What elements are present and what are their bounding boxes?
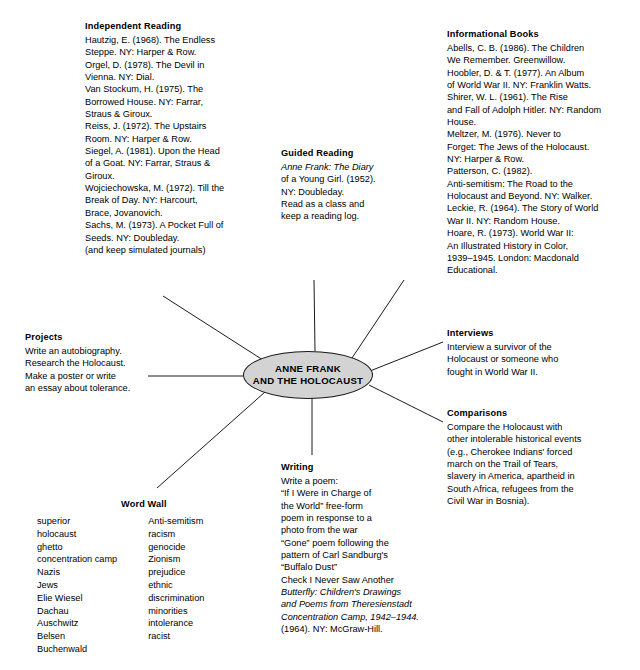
- branch-title-writing: Writing: [281, 461, 451, 474]
- branch-title-independent-reading: Independent Reading: [85, 20, 260, 33]
- word-wall-column-left: superior holocaust ghetto concentration …: [37, 515, 117, 656]
- text-line: Holocaust or someone who: [447, 353, 617, 365]
- text-line: Anne Frank: The Diary: [281, 161, 401, 173]
- text-line: Leckie, R. (1964). The Story of World: [447, 202, 627, 214]
- text-line: NY: Harper & Row.: [447, 153, 627, 165]
- text-line: Orgel, D. (1978). The Devil in: [85, 59, 260, 71]
- branch-title-comparisons: Comparisons: [447, 407, 627, 420]
- text-line: Civil War in Bosnia).: [447, 495, 627, 507]
- text-line: Compare the Holocaust with: [447, 421, 627, 433]
- word-wall-term: superior: [37, 515, 117, 528]
- word-wall-column-right: Anti-semitism racism genocide Zionism pr…: [148, 515, 204, 656]
- connector-comparisons: [369, 385, 443, 422]
- word-wall-term: Anti-semitism: [148, 515, 204, 528]
- text-line: Read as a class and: [281, 198, 401, 210]
- word-wall-term: Dachau: [37, 605, 117, 618]
- text-line: An Illustrated History in Color,: [447, 240, 627, 252]
- text-line: “Gone” poem following the: [281, 537, 451, 549]
- text-line: of a Goat. NY: Farrar, Straus &: [85, 157, 260, 169]
- word-wall-term: ghetto: [37, 541, 117, 554]
- branch-body-projects: Write an autobiography. Research the Hol…: [25, 345, 190, 394]
- text-line: poem in response to a: [281, 512, 451, 524]
- text-line: (1964). NY: McGraw-Hill.: [281, 623, 451, 635]
- word-wall-term: Jews: [37, 579, 117, 592]
- branch-title-interviews: Interviews: [447, 327, 617, 340]
- text-line: Straus & Giroux.: [85, 108, 260, 120]
- text-line: slavery in America, apartheid in: [447, 470, 627, 482]
- text-line: Interview a survivor of the: [447, 341, 617, 353]
- word-wall-term: Auschwitz: [37, 617, 117, 630]
- branch-body-independent-reading: Hautzig, E. (1968). The Endless Steppe. …: [85, 34, 260, 256]
- word-wall-term: discrimination: [148, 592, 204, 605]
- word-wall-term: Zionism: [148, 553, 204, 566]
- text-line: fought in World War II.: [447, 366, 617, 378]
- text-line: Hoare, R. (1973). World War II:: [447, 227, 627, 239]
- word-wall-term: Buchenwald: [37, 643, 117, 656]
- center-node-anne-frank-and-the-holocaust: ANNE FRANK AND THE HOLOCAUST: [243, 351, 373, 399]
- text-line: Holocaust and Beyond. NY: Walker.: [447, 190, 627, 202]
- word-wall-term: Belsen: [37, 630, 117, 643]
- text-line: of World War II. NY: Franklin Watts.: [447, 79, 627, 91]
- branch-body-comparisons: Compare the Holocaust with other intoler…: [447, 421, 627, 507]
- branch-independent-reading: Independent Reading Hautzig, E. (1968). …: [85, 20, 260, 256]
- text-line: Meltzer, M. (1976). Never to: [447, 128, 627, 140]
- text-line: Make a poster or write: [25, 370, 190, 382]
- branch-body-interviews: Interview a survivor of the Holocaust or…: [447, 341, 617, 378]
- text-line: an essay about tolerance.: [25, 382, 190, 394]
- connector-guided-reading: [314, 280, 315, 351]
- word-wall-term: holocaust: [37, 528, 117, 541]
- text-line: Educational.: [447, 264, 627, 276]
- text-line: Concentration Camp, 1942–1944.: [281, 611, 451, 623]
- text-line: Van Stockum, H. (1975). The: [85, 83, 260, 95]
- text-line: Reiss, J. (1972). The Upstairs: [85, 120, 260, 132]
- text-line: Giroux.: [85, 170, 260, 182]
- text-line: photo from the war: [281, 524, 451, 536]
- text-line: Research the Holocaust.: [25, 357, 190, 369]
- text-line: (e.g., Cherokee Indians' forced: [447, 446, 627, 458]
- text-line: Steppe. NY: Harper & Row.: [85, 46, 260, 58]
- text-line: Forget: The Jews of the Holocaust.: [447, 141, 627, 153]
- connector-informational-books: [352, 280, 404, 358]
- branch-informational-books: Informational Books Abells, C. B. (1986)…: [447, 28, 627, 277]
- text-line: keep a reading log.: [281, 210, 401, 222]
- word-wall-term: minorities: [148, 605, 204, 618]
- branch-guided-reading: Guided Reading Anne Frank: The Diary of …: [281, 147, 401, 223]
- text-line: Write a poem:: [281, 475, 451, 487]
- text-line: Break of Day. NY: Harcourt,: [85, 194, 260, 206]
- text-line: Brace, Jovanovich.: [85, 207, 260, 219]
- branch-projects: Projects Write an autobiography. Researc…: [25, 331, 190, 394]
- text-line: NY: Doubleday.: [281, 186, 401, 198]
- branch-word-wall: Word Wall superior holocaust ghetto conc…: [37, 498, 252, 656]
- text-line: War II. NY: Random House.: [447, 215, 627, 227]
- text-line: We Remember. Greenwillow.: [447, 54, 627, 66]
- text-line: Hoobler, D. & T. (1977). An Album: [447, 67, 627, 79]
- text-line: Borrowed House. NY: Farrar,: [85, 96, 260, 108]
- text-line: Vienna. NY: Dial.: [85, 71, 260, 83]
- text-line: the World” free-form: [281, 500, 451, 512]
- text-line: (and keep simulated journals): [85, 244, 260, 256]
- text-line: and Fall of Adolph Hitler. NY: Random: [447, 104, 627, 116]
- branch-writing: Writing Write a poem: “If I Were in Char…: [281, 461, 451, 635]
- word-wall-term: Nazis: [37, 566, 117, 579]
- branch-title-guided-reading: Guided Reading: [281, 147, 401, 160]
- branch-title-word-wall: Word Wall: [121, 498, 252, 511]
- text-line: Sachs, M. (1973). A Pocket Full of: [85, 219, 260, 231]
- center-node-line-1: ANNE FRANK: [253, 363, 363, 375]
- branch-interviews: Interviews Interview a survivor of the H…: [447, 327, 617, 378]
- word-wall-term: genocide: [148, 541, 204, 554]
- text-line: pattern of Carl Sandburg's: [281, 549, 451, 561]
- text-line: Shirer, W. L. (1961). The Rise: [447, 91, 627, 103]
- text-line: Butterfly: Children's Drawings: [281, 586, 451, 598]
- word-wall-term: Elie Wiesel: [37, 592, 117, 605]
- text-line: Siegel, A. (1981). Upon the Head: [85, 145, 260, 157]
- text-line: Wojciechowska, M. (1972). Till the: [85, 182, 260, 194]
- mind-map-canvas: ANNE FRANK AND THE HOLOCAUST Independent…: [0, 0, 640, 670]
- text-line: House.: [447, 116, 627, 128]
- text-line: Hautzig, E. (1968). The Endless: [85, 34, 260, 46]
- branch-body-writing: Write a poem: “If I Were in Charge of th…: [281, 475, 451, 635]
- text-line: “Buffalo Dust”: [281, 561, 451, 573]
- text-line: Check I Never Saw Another: [281, 574, 451, 586]
- text-line: Abells, C. B. (1986). The Children: [447, 42, 627, 54]
- word-wall-term: prejudice: [148, 566, 204, 579]
- word-wall-term: concentration camp: [37, 553, 117, 566]
